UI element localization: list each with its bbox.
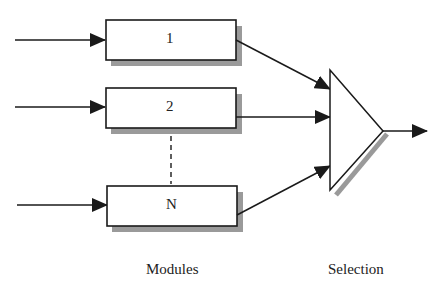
ensemble-diagram: [0, 0, 439, 288]
modules-caption: Modules: [146, 261, 199, 278]
module-2-label: 2: [166, 98, 174, 115]
output-arrow-n: [237, 166, 330, 215]
output-arrow-1: [236, 40, 330, 89]
module-n-label: N: [166, 196, 177, 213]
selection-caption: Selection: [328, 261, 384, 278]
module-1-label: 1: [166, 30, 174, 47]
module-box-2: [106, 88, 242, 134]
selector-triangle: [330, 70, 387, 195]
module-box-1: [106, 20, 242, 66]
